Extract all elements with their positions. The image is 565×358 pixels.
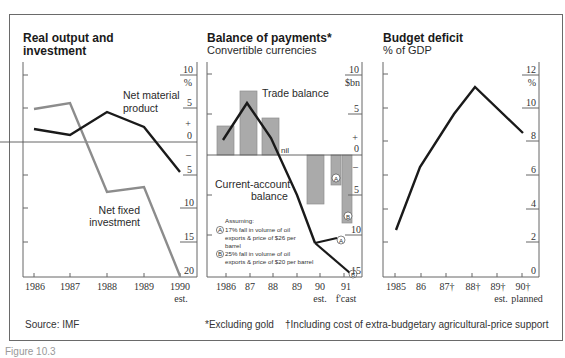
svg-text:%: % xyxy=(184,77,192,88)
marker-a-bar: A xyxy=(332,174,340,182)
net-material-label-1: Net material xyxy=(123,89,180,101)
svg-text:1986: 1986 xyxy=(25,281,45,292)
svg-text:0: 0 xyxy=(531,265,536,276)
svg-text:91: 91 xyxy=(341,281,351,292)
svg-text:1988: 1988 xyxy=(97,281,117,292)
svg-text:10: 10 xyxy=(351,224,361,235)
svg-text:20: 20 xyxy=(184,265,194,276)
marker-a-line: A xyxy=(337,236,345,244)
svg-text:1989: 1989 xyxy=(134,281,154,292)
svg-text:12: 12 xyxy=(526,64,536,75)
svg-text:5: 5 xyxy=(187,164,192,175)
panel3-x-labels: 1985 86 87† 88† 89† 90† est. planned xyxy=(386,281,543,304)
panel-real-output: Real output and investment 10 % 5 + 0 xyxy=(0,31,197,304)
svg-text:5: 5 xyxy=(354,103,359,114)
svg-text:f'cast: f'cast xyxy=(336,293,357,304)
svg-text:88†: 88† xyxy=(466,281,481,292)
svg-text:15: 15 xyxy=(184,231,194,242)
svg-text:5: 5 xyxy=(354,184,359,195)
svg-text:–: – xyxy=(185,149,192,160)
panel2-subtitle: Convertible currencies xyxy=(207,44,317,56)
panel1-title-line1: Real output and xyxy=(23,31,114,45)
svg-text:10: 10 xyxy=(184,197,194,208)
svg-text:10: 10 xyxy=(526,97,536,108)
svg-text:est.: est. xyxy=(494,293,508,304)
budget-deficit-line xyxy=(396,87,523,230)
svg-text:est.: est. xyxy=(313,293,327,304)
svg-text:89: 89 xyxy=(292,281,302,292)
svg-text:barrel: barrel xyxy=(225,242,241,249)
svg-text:15: 15 xyxy=(351,265,361,276)
svg-text:–: – xyxy=(352,161,359,172)
current-account-label-2: balance xyxy=(251,190,288,202)
footnote-excluding-gold: *Excluding gold xyxy=(205,319,274,330)
svg-text:90†: 90† xyxy=(516,281,531,292)
svg-text:2: 2 xyxy=(531,231,536,242)
marker-b-bar: B xyxy=(344,212,352,220)
svg-text:86: 86 xyxy=(416,281,426,292)
trade-balance-bars xyxy=(217,91,352,223)
panel1-title-line2: investment xyxy=(23,44,86,58)
svg-text:10: 10 xyxy=(183,64,193,75)
panel1-x-labels: 1986 1987 1988 1989 1990 est. xyxy=(25,281,190,304)
svg-text:4: 4 xyxy=(531,198,536,209)
svg-text:1985: 1985 xyxy=(386,281,406,292)
svg-text:exports & price of $20 per bar: exports & price of $20 per barrel xyxy=(225,258,313,265)
net-fixed-investment-line xyxy=(34,103,180,276)
svg-text:1990: 1990 xyxy=(170,281,190,292)
panel-budget-deficit: Budget deficit % of GDP 12 % 10 8 6 4 xyxy=(383,31,543,304)
figure-caption: Figure 10.3 xyxy=(5,346,56,357)
trade-balance-label: Trade balance xyxy=(262,87,329,99)
svg-text:est.: est. xyxy=(174,293,188,304)
svg-text:5: 5 xyxy=(187,97,192,108)
svg-text:B: B xyxy=(346,213,350,220)
current-account-forecast-b xyxy=(315,243,350,273)
svg-text:17% fall in volume of oil: 17% fall in volume of oil xyxy=(225,226,290,233)
svg-text:8: 8 xyxy=(531,130,536,141)
assumptions-note: Assuming: A 17% fall in volume of oil ex… xyxy=(216,217,313,265)
svg-text:1987: 1987 xyxy=(60,281,80,292)
svg-text:planned: planned xyxy=(511,293,543,304)
net-fixed-label-2: investment xyxy=(89,216,140,228)
panel3-subtitle: % of GDP xyxy=(383,44,432,56)
svg-text:0: 0 xyxy=(354,143,359,154)
figure-svg: Real output and investment 10 % 5 + 0 xyxy=(0,0,565,358)
svg-text:90: 90 xyxy=(315,281,325,292)
panel3-title: Budget deficit xyxy=(383,31,463,45)
panel1-y-ticks: 10 % 5 + 0 – 5 10 15 20 xyxy=(180,64,197,276)
svg-text:89†: 89† xyxy=(491,281,506,292)
svg-text:87: 87 xyxy=(245,281,255,292)
panel2-x-labels: 1986 87 88 89 90 91 est. f'cast xyxy=(216,281,357,304)
panel3-y-ticks: 12 % 10 8 6 4 2 0 xyxy=(522,64,539,276)
panel2-title: Balance of payments* xyxy=(207,31,332,45)
svg-text:B: B xyxy=(218,250,222,257)
svg-text:exports & price of $26 per: exports & price of $26 per xyxy=(225,234,296,241)
svg-text:1986: 1986 xyxy=(216,281,236,292)
net-material-label-2: product xyxy=(123,102,158,114)
svg-text:6: 6 xyxy=(531,164,536,175)
current-account-label-1: Current-account xyxy=(215,178,290,190)
svg-text:87†: 87† xyxy=(440,281,455,292)
svg-text:10: 10 xyxy=(349,64,359,75)
svg-text:+: + xyxy=(352,132,358,143)
svg-text:+: + xyxy=(185,118,191,129)
svg-text:0: 0 xyxy=(187,130,192,141)
nil-label: nil xyxy=(281,146,289,155)
svg-text:88: 88 xyxy=(268,281,278,292)
current-account-forecast-a xyxy=(315,238,337,243)
svg-text:25% fall in volume of oil: 25% fall in volume of oil xyxy=(225,250,290,257)
panel-balance-of-payments: Balance of payments* Convertible currenc… xyxy=(207,31,362,304)
source-note: Source: IMF xyxy=(25,319,79,330)
footnote-agricultural-support: †Including cost of extra-budgetary agric… xyxy=(285,319,549,330)
svg-text:Assuming:: Assuming: xyxy=(225,217,254,224)
svg-text:%: % xyxy=(528,77,536,88)
svg-text:$bn: $bn xyxy=(345,77,360,88)
net-fixed-label-1: Net fixed xyxy=(99,204,141,216)
